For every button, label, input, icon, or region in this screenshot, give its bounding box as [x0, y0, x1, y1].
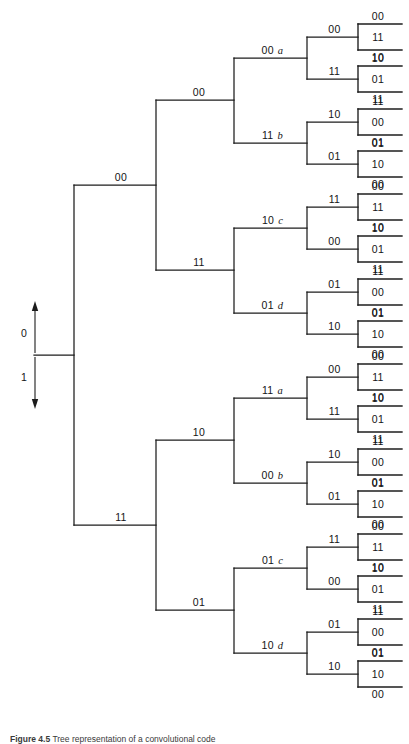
leaf-7-label-inside: 10: [372, 328, 384, 340]
edge-label-l5-11: 01: [328, 490, 340, 502]
root-arrow-layer: [32, 301, 74, 409]
leaf-12-label-inside: 11: [372, 541, 384, 553]
leaf-13-label-above: 10: [372, 562, 384, 574]
root-bit-1-label: 1: [21, 371, 27, 383]
leaf-0-label-inside: 11: [372, 31, 384, 43]
edge-label-l4-6: 01c: [262, 554, 283, 566]
edge-label-l5-1: 11: [329, 65, 341, 77]
edge-label-l5-3: 01: [328, 150, 340, 162]
edge-label-l5-12: 11: [329, 533, 341, 545]
leaf-15-label-below: 00: [372, 688, 384, 700]
edge-label-l5-2: 10: [328, 108, 340, 120]
edge-label-l5-9: 11: [329, 405, 341, 417]
leaf-15-label-inside: 10: [372, 668, 384, 680]
edge-label-l5-0: 00: [328, 23, 340, 35]
edge-label-l3-1: 11: [193, 256, 205, 268]
edge-label-l2-0: 00: [115, 171, 127, 183]
leaf-2-label-inside: 00: [372, 116, 384, 128]
leaf-6-label-above: 11: [372, 265, 384, 277]
edge-label-l4-3: 01d: [262, 299, 284, 311]
edge-label-l5-14: 01: [328, 618, 340, 630]
edge-label-l4-2: 10c: [262, 214, 283, 226]
leaf-11-label-above: 01: [372, 477, 384, 489]
leaf-2-label-above: 11: [372, 95, 384, 107]
caption-text: Tree representation of a convolutional c…: [52, 734, 215, 744]
edge-label-l4-5: 00b: [262, 469, 284, 481]
caption-number: Figure 4.5: [10, 734, 50, 744]
leaf-5-label-above: 10: [372, 222, 384, 234]
leaf-7-label-above: 01: [372, 307, 384, 319]
leaf-3-label-inside: 10: [372, 158, 384, 170]
leaf-4-label-above: 00: [372, 180, 384, 192]
root-bit-0-label: 0: [21, 327, 27, 339]
leaf-15-label-above: 01: [372, 647, 384, 659]
edge-label-l5-5: 00: [328, 235, 340, 247]
branch-lines-layer: [74, 37, 358, 674]
edge-label-l2-1: 11: [115, 511, 127, 523]
edge-label-l3-0: 00: [193, 86, 205, 98]
edge-label-l3-3: 01: [193, 596, 205, 608]
leaf-9-label-above: 10: [372, 392, 384, 404]
edge-label-l5-15: 10: [328, 660, 340, 672]
leaf-14-label-above: 11: [372, 605, 384, 617]
edge-label-l4-7: 10d: [262, 639, 284, 651]
leaf-1-label-above: 10: [372, 52, 384, 64]
leaf-14-label-inside: 00: [372, 626, 384, 638]
edge-label-l5-7: 10: [328, 320, 340, 332]
up-arrow-head: [32, 301, 38, 311]
edge-label-l4-1: 11b: [262, 129, 283, 141]
leaf-10-label-inside: 00: [372, 456, 384, 468]
leaf-8-label-above: 00: [372, 350, 384, 362]
leaf-4-label-inside: 11: [372, 201, 384, 213]
leaf-11-label-inside: 10: [372, 498, 384, 510]
leaf-3-label-above: 01: [372, 137, 384, 149]
edge-label-l3-2: 10: [193, 426, 205, 438]
leaf-5-label-inside: 01: [372, 243, 384, 255]
leaf-6-label-inside: 00: [372, 286, 384, 298]
edge-label-l5-10: 10: [328, 448, 340, 460]
leaf-10-label-above: 11: [372, 435, 384, 447]
figure-caption: Figure 4.5 Tree representation of a conv…: [10, 734, 405, 744]
leaf-9-label-inside: 01: [372, 413, 384, 425]
edge-label-l5-8: 00: [328, 363, 340, 375]
leaf-8-label-inside: 11: [372, 371, 384, 383]
down-arrow-head: [32, 399, 38, 409]
leaf-0-label-above: 00: [372, 10, 384, 22]
edge-label-l4-4: 11a: [262, 384, 283, 396]
edge-label-l5-13: 00: [328, 575, 340, 587]
edge-label-l4-0: 00a: [262, 44, 284, 56]
leaf-12-label-above: 00: [372, 520, 384, 532]
leaf-13-label-inside: 01: [372, 583, 384, 595]
edge-label-l5-4: 11: [329, 193, 341, 205]
edge-label-l5-6: 01: [328, 278, 340, 290]
leaf-1-label-inside: 01: [372, 73, 384, 85]
labels-layer: 0100110011100100a11b10c01d11a00b01c10d00…: [21, 10, 384, 700]
